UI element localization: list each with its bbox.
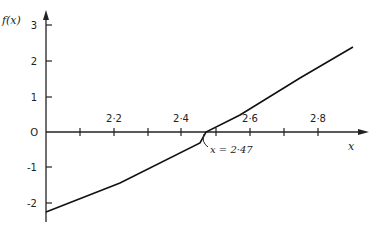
y-tick-label: -1 [27,162,37,173]
x-tick-label: 2·8 [310,113,326,124]
y-ticks [46,25,52,203]
root-pointer [203,134,208,147]
function-curve [46,47,353,212]
y-tick-label: O [30,127,38,138]
x-axis-arrow-icon [358,129,369,135]
y-axis-arrow-icon [43,10,49,20]
x-tick-label: 2·4 [173,113,189,124]
chart: 3 2 1 O -1 -2 2·2 2·4 2·6 2·8 f(x) x x =… [0,0,383,235]
y-tick-label: 2 [31,56,37,67]
root-annotation: x = 2·47 [210,144,253,155]
y-tick-label: 1 [31,92,37,103]
x-tick-label: 2·6 [242,113,258,124]
y-axis-title: f(x) [1,14,21,27]
y-tick-label: 3 [31,20,37,31]
x-axis-title: x [348,140,355,153]
y-tick-label: -2 [27,198,37,209]
x-tick-label: 2·2 [106,113,122,124]
